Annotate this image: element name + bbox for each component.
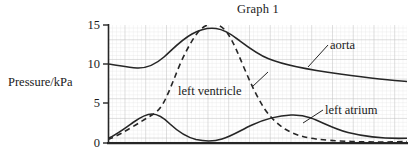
major-gridlines — [108, 25, 407, 143]
y-tick-label-5: 5 — [82, 97, 100, 110]
y-tick-label-10: 10 — [82, 58, 100, 71]
series-label-left-atrium: left atrium — [325, 104, 377, 117]
series-label-aorta: aorta — [330, 39, 355, 52]
y-tick-marks — [103, 25, 108, 143]
y-tick-label-0: 0 — [82, 137, 100, 150]
y-axis-label: Pressure/kPa — [8, 75, 73, 90]
y-tick-label-15: 15 — [82, 19, 100, 32]
chart-title: Graph 1 — [108, 2, 408, 17]
chart-figure: Graph 1 Pressure/kPa 15 10 5 0 aorta lef… — [0, 0, 420, 164]
series-label-left-ventricle: left ventricle — [178, 85, 242, 98]
